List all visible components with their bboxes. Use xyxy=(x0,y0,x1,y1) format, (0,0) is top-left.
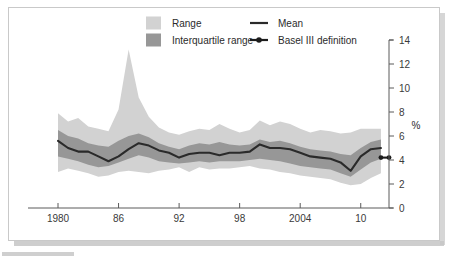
legend-dot-marker xyxy=(256,37,262,43)
x-axis-tick-label: 10 xyxy=(355,213,367,224)
bottom-artifact-bar xyxy=(2,252,74,256)
x-axis-tick-label: 92 xyxy=(174,213,186,224)
figure-root: 02468101214 1980869298200410 % RangeInte… xyxy=(0,0,454,264)
x-axis: 1980869298200410 xyxy=(28,203,389,224)
y-axis-tick-label: 12 xyxy=(399,59,411,70)
chart-area: 02468101214 1980869298200410 % RangeInte… xyxy=(8,7,440,241)
y-axis-tick-label: 6 xyxy=(399,131,405,142)
y-axis-tick-label: 8 xyxy=(399,107,405,118)
chart-svg: 02468101214 1980869298200410 % RangeInte… xyxy=(8,7,440,241)
y-axis-tick-label: 10 xyxy=(399,83,411,94)
y-axis-tick-label: 4 xyxy=(399,155,405,166)
legend-item-label: Interquartile range xyxy=(172,35,254,46)
y-axis-tick-label: 2 xyxy=(399,179,405,190)
legend-swatch xyxy=(146,34,161,47)
x-axis-tick-label: 1980 xyxy=(47,213,70,224)
legend-swatch xyxy=(146,17,161,30)
legend-item-label: Mean xyxy=(278,18,303,29)
chart-legend: RangeInterquartile rangeMeanBasel III de… xyxy=(146,17,357,47)
card-shadow-right xyxy=(440,13,445,245)
y-axis-tick-label: 14 xyxy=(399,35,411,46)
legend-item: Mean xyxy=(250,18,303,29)
x-axis-tick-label: 86 xyxy=(113,213,125,224)
legend-item: Interquartile range xyxy=(146,34,254,47)
card-shadow-bottom xyxy=(14,241,444,246)
y-axis: 02468101214 xyxy=(389,35,411,214)
legend-item-label: Basel III definition xyxy=(278,35,357,46)
legend-item: Basel III definition xyxy=(250,35,357,46)
legend-item: Range xyxy=(146,17,202,30)
y-axis-tick-label: 0 xyxy=(399,203,405,214)
legend-item-label: Range xyxy=(172,18,202,29)
y-axis-unit-label: % xyxy=(412,120,421,131)
x-axis-tick-label: 98 xyxy=(234,213,246,224)
x-axis-tick-label: 2004 xyxy=(289,213,312,224)
